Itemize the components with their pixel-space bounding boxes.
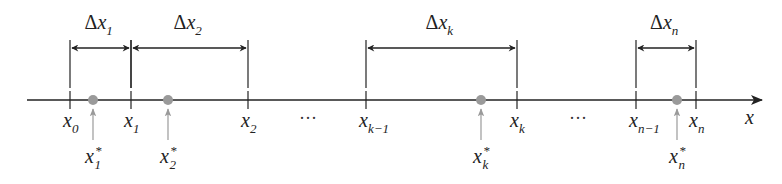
interval-label-delta-xn: Δxn bbox=[650, 11, 678, 38]
sample-point-label: x*1 bbox=[84, 143, 102, 172]
sample-point-dot bbox=[672, 95, 682, 105]
tick-label-x2: x2 bbox=[240, 109, 257, 136]
interval-label-delta-x2: Δx2 bbox=[174, 11, 203, 38]
partition-diagram: xx0x1x2xk−1xkxn−1xn······Δx1Δx2ΔxkΔxnx*1… bbox=[0, 0, 782, 184]
sample-point-label: x*k bbox=[472, 143, 490, 172]
sample-point-dot bbox=[88, 95, 98, 105]
tick-label-xk: xk bbox=[509, 109, 525, 136]
ellipsis: ··· bbox=[299, 108, 317, 128]
sample-point-label: x*n bbox=[668, 143, 686, 172]
tick-label-x0: x0 bbox=[62, 109, 79, 136]
axis-label: x bbox=[744, 106, 754, 128]
tick-label-xk-1: xk−1 bbox=[358, 109, 389, 136]
labels: xx0x1x2xk−1xkxn−1xn······Δx1Δx2ΔxkΔxnx*1… bbox=[62, 11, 754, 172]
interval-label-delta-xk: Δxk bbox=[426, 11, 454, 38]
tick-label-xn-1: xn−1 bbox=[628, 109, 660, 136]
ellipsis: ··· bbox=[569, 108, 587, 128]
tick-label-xn: xn bbox=[688, 109, 704, 136]
sample-point-dot bbox=[163, 95, 173, 105]
sample-point-dot bbox=[476, 95, 486, 105]
sample-point-label: x*2 bbox=[159, 143, 177, 172]
tick-label-x1: x1 bbox=[123, 109, 139, 136]
interval-brackets bbox=[70, 40, 696, 88]
interval-label-delta-x1: Δx1 bbox=[85, 11, 113, 38]
